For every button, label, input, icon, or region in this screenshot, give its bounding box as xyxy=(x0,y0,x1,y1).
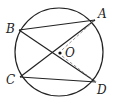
label-b: B xyxy=(5,22,15,36)
label-a: A xyxy=(97,7,107,21)
label-c: C xyxy=(6,73,15,87)
circle-diagram: A B C D O xyxy=(0,0,116,101)
label-o: O xyxy=(65,46,75,60)
segment-bd xyxy=(19,30,96,82)
center-dot xyxy=(58,51,61,54)
segment-cd xyxy=(20,77,96,82)
label-d: D xyxy=(96,83,107,97)
